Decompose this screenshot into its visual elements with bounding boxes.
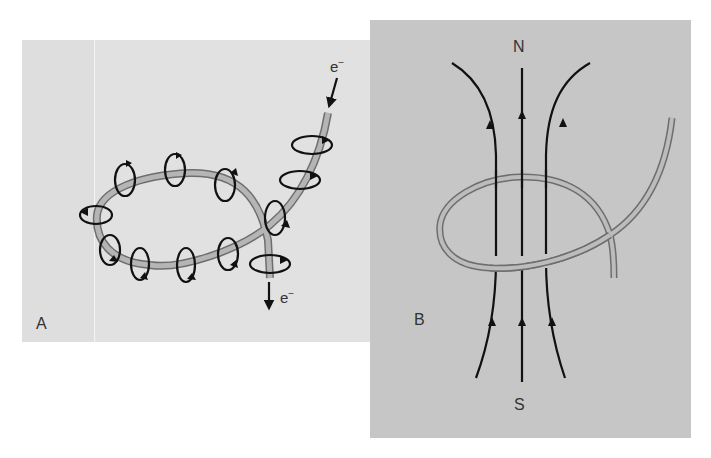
south-pole-label: S xyxy=(514,396,525,413)
panel-b-label: B xyxy=(414,311,425,328)
panel-a-label: A xyxy=(36,315,47,332)
panel-b-wire xyxy=(440,118,672,278)
north-pole-label: N xyxy=(513,38,525,55)
panel-b-field-arrowheads xyxy=(486,110,567,326)
electron-in-label: e− xyxy=(330,57,344,75)
diagram-canvas: e− e− A N S B xyxy=(0,0,711,458)
panel-b-field-lines xyxy=(452,63,590,382)
panel-a-wire xyxy=(97,113,328,278)
electron-out-label: e− xyxy=(280,288,294,306)
field-line-left xyxy=(452,63,496,378)
field-line-right xyxy=(546,63,590,378)
electron-in-arrow-icon xyxy=(330,78,337,103)
panel-b-wire-bottom xyxy=(490,235,610,268)
